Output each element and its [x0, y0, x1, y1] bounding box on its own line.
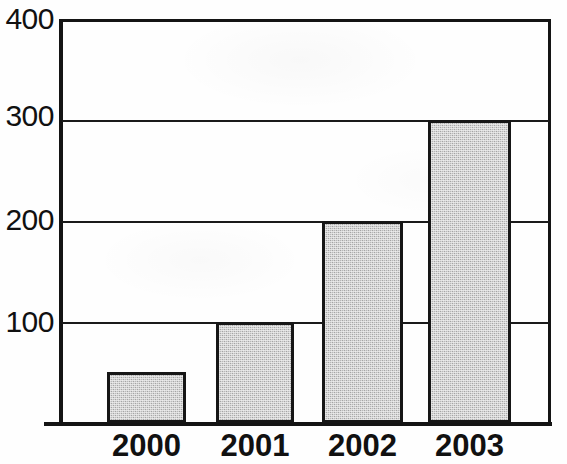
bar-2001 — [216, 322, 294, 423]
x-axis-label-2000: 2000 — [107, 430, 186, 461]
bar-chart: 400 300 200 100 2000 2001 2002 2003 — [0, 0, 567, 464]
x-axis-label-2001: 2001 — [216, 430, 294, 461]
x-axis-label-2002: 2002 — [322, 430, 403, 461]
x-axis-label-2003: 2003 — [428, 430, 511, 461]
bar-2002 — [322, 221, 403, 423]
y-axis-tick-label-400: 400 — [0, 4, 54, 34]
bar-2003 — [428, 120, 511, 423]
y-axis-tick-label-200: 200 — [0, 205, 54, 235]
y-axis-tick-label-300: 300 — [0, 101, 54, 131]
bar-2000 — [107, 372, 186, 423]
y-axis-tick-label-100: 100 — [0, 307, 54, 337]
